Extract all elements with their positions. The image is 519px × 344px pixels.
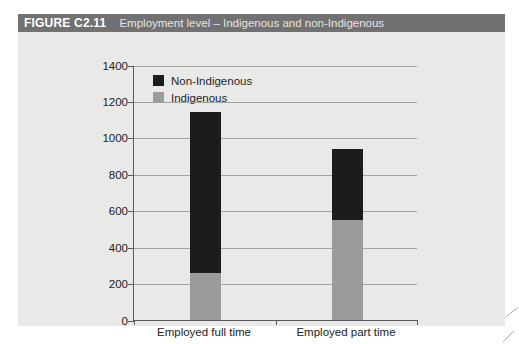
y-axis-label: 1000 (82, 132, 128, 145)
y-axis-label: 200 (82, 278, 128, 291)
figure-header: FIGURE C2.11 Employment level – Indigeno… (18, 14, 505, 32)
plot-area: Non-IndigenousIndigenous (133, 66, 417, 321)
legend-item: Non-Indigenous (153, 72, 252, 89)
gridline (134, 66, 417, 67)
legend: Non-IndigenousIndigenous (153, 72, 252, 106)
x-axis-label: Employed full time (129, 326, 279, 338)
y-axis-tick (128, 284, 134, 285)
bar-segment-non-indigenous (332, 149, 363, 220)
y-axis-label: 400 (82, 242, 128, 255)
legend-label: Non-Indigenous (171, 75, 252, 87)
gridline (134, 248, 417, 249)
legend-swatch-icon (153, 75, 164, 86)
y-axis-label: 1400 (82, 60, 128, 73)
gridline (134, 175, 417, 176)
figure-label: FIGURE C2.11 (24, 16, 106, 30)
chart-area: Non-IndigenousIndigenous 020040060080010… (18, 32, 505, 326)
gridline (134, 211, 417, 212)
bar-segment-indigenous (332, 220, 363, 320)
figure-title: Employment level – Indigenous and non-In… (119, 17, 384, 29)
y-axis-label: 0 (82, 315, 128, 328)
bar-segment-indigenous (190, 273, 221, 320)
bar-segment-non-indigenous (190, 112, 221, 272)
pen-mark (502, 330, 515, 343)
gridline (134, 284, 417, 285)
legend-item: Indigenous (153, 89, 252, 106)
y-axis-label: 600 (82, 205, 128, 218)
y-axis-tick (128, 211, 134, 212)
y-axis-tick (128, 66, 134, 67)
y-axis-label: 1200 (82, 96, 128, 109)
y-axis-tick (128, 175, 134, 176)
y-axis-tick (128, 248, 134, 249)
x-axis-label: Employed part time (271, 326, 421, 338)
figure-box: FIGURE C2.11 Employment level – Indigeno… (18, 14, 505, 326)
x-axis-tick (134, 320, 135, 325)
y-axis-label: 800 (82, 169, 128, 182)
gridline (134, 102, 417, 103)
x-axis-tick (276, 320, 277, 325)
pen-mark (504, 307, 518, 318)
x-axis-tick (417, 320, 418, 325)
y-axis-tick (128, 138, 134, 139)
y-axis-tick (128, 102, 134, 103)
gridline (134, 138, 417, 139)
